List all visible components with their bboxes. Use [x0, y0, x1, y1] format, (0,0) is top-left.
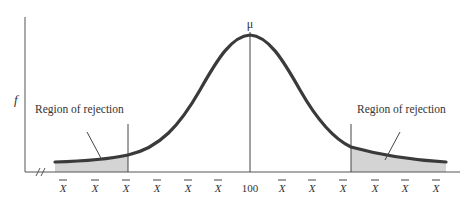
- svg-text:X: X: [339, 182, 348, 194]
- svg-text:X: X: [184, 182, 193, 194]
- tick-xbar: X: [401, 180, 410, 194]
- svg-text:X: X: [122, 182, 131, 194]
- tick-xbar: X: [371, 180, 380, 194]
- svg-text:100: 100: [242, 182, 259, 194]
- tick-xbar: X: [153, 180, 162, 194]
- svg-text:X: X: [214, 182, 223, 194]
- left-region-label: Region of rejection: [35, 103, 124, 116]
- tick-xbar: X: [214, 180, 223, 194]
- svg-text:X: X: [59, 182, 68, 194]
- y-axis-label: f: [14, 92, 20, 107]
- mu-label: μ: [247, 17, 253, 31]
- normal-distribution-diagram: f μ Region of rejection Region of reject…: [0, 0, 472, 205]
- svg-text:X: X: [278, 182, 287, 194]
- svg-text:X: X: [371, 182, 380, 194]
- svg-text:X: X: [153, 182, 162, 194]
- svg-text:X: X: [308, 182, 317, 194]
- x-tick-labels: X X X X X X 100 X X X X X X: [59, 180, 441, 194]
- tick-xbar: X: [59, 180, 68, 194]
- tick-xbar: X: [308, 180, 317, 194]
- tick-center: 100: [242, 182, 259, 194]
- svg-text:X: X: [432, 182, 441, 194]
- tick-xbar: X: [278, 180, 287, 194]
- svg-text:X: X: [91, 182, 100, 194]
- tick-xbar: X: [432, 180, 441, 194]
- left-region-pointer: [87, 132, 102, 160]
- tick-xbar: X: [91, 180, 100, 194]
- tick-xbar: X: [339, 180, 348, 194]
- tick-xbar: X: [122, 180, 131, 194]
- svg-text:X: X: [401, 182, 410, 194]
- right-region-label: Region of rejection: [357, 103, 446, 116]
- tick-xbar: X: [184, 180, 193, 194]
